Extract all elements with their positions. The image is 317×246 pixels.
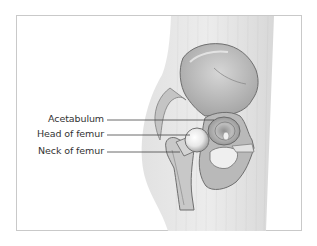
- label-acetabulum: Acetabulum: [48, 113, 104, 124]
- label-head-of-femur: Head of femur: [37, 128, 104, 139]
- label-neck-of-femur: Neck of femur: [38, 145, 104, 156]
